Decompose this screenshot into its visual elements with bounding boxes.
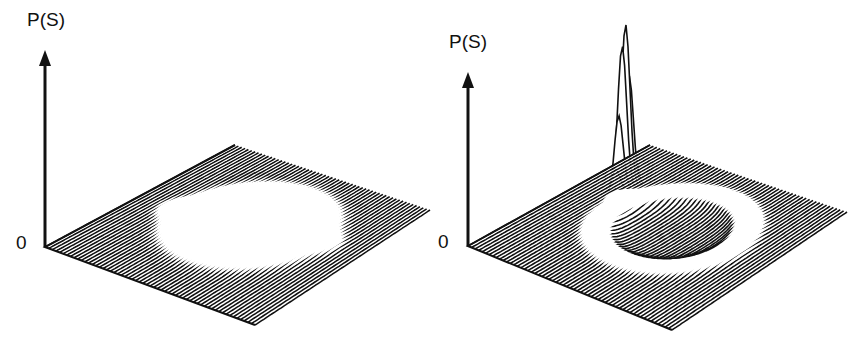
y-axis-arrow-icon (39, 50, 51, 66)
y-axis-arrow-icon (462, 72, 474, 88)
surface-mesh-left (0, 0, 440, 343)
y-axis-label-right: P(S) (449, 31, 487, 53)
origin-label-left: 0 (16, 232, 27, 254)
mesh-lines (468, 25, 847, 332)
mesh-lines (45, 145, 430, 327)
surface-plot-right: P(S) 0 (420, 0, 868, 343)
y-axis-label-left: P(S) (27, 9, 65, 31)
origin-label-right: 0 (438, 231, 449, 253)
surface-plot-left: P(S) 0 (0, 0, 440, 343)
surface-mesh-right (420, 0, 868, 343)
